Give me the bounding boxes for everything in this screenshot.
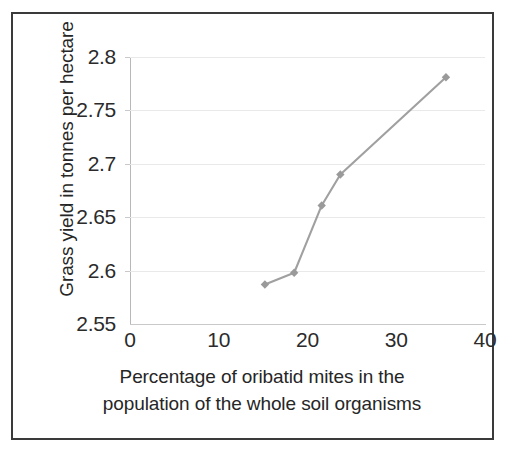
x-tick-label-40: 40	[455, 328, 514, 352]
y-tick-label-2.6: 2.6	[42, 259, 116, 283]
x-tick-label-30: 30	[366, 328, 426, 352]
chart-figure: Grass yield in tonnes per hectare 2.552.…	[0, 0, 514, 458]
plot-area	[130, 57, 485, 324]
x-tick-label-10: 10	[189, 328, 249, 352]
x-axis-title-line-2: population of the whole soil organisms	[37, 391, 487, 418]
x-axis-title-line-1: Percentage of oribatid mites in the	[37, 364, 487, 391]
series-line	[265, 77, 446, 284]
x-tick-label-0: 0	[100, 328, 160, 352]
data-series-grass-yield	[130, 57, 485, 324]
y-tick-label-2.65: 2.65	[42, 205, 116, 229]
x-tick-label-20: 20	[278, 328, 338, 352]
series-marker-group	[261, 73, 450, 289]
y-tick-label-2.75: 2.75	[42, 98, 116, 122]
x-axis-line	[130, 324, 486, 325]
x-axis-title: Percentage of oribatid mites in the popu…	[37, 364, 487, 418]
data-point-0	[261, 280, 269, 288]
figure-border: Grass yield in tonnes per hectare 2.552.…	[11, 12, 494, 440]
y-tick-label-2.7: 2.7	[42, 152, 116, 176]
y-tick-label-2.8: 2.8	[42, 45, 116, 69]
data-point-1	[290, 269, 298, 277]
